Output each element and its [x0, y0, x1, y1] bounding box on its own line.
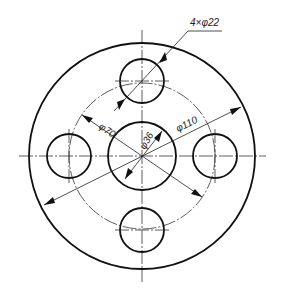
center-hole-label: φ36: [137, 130, 156, 151]
outer-diameter-label: φ110: [174, 114, 199, 134]
technical-drawing: 4×φ22 φ70 φ110 φ36: [0, 0, 281, 296]
center-hole-dimension: φ36: [125, 130, 162, 179]
bolt-hole-dimension: 4×φ22: [114, 17, 222, 111]
bolt-hole-label: 4×φ22: [190, 17, 219, 28]
